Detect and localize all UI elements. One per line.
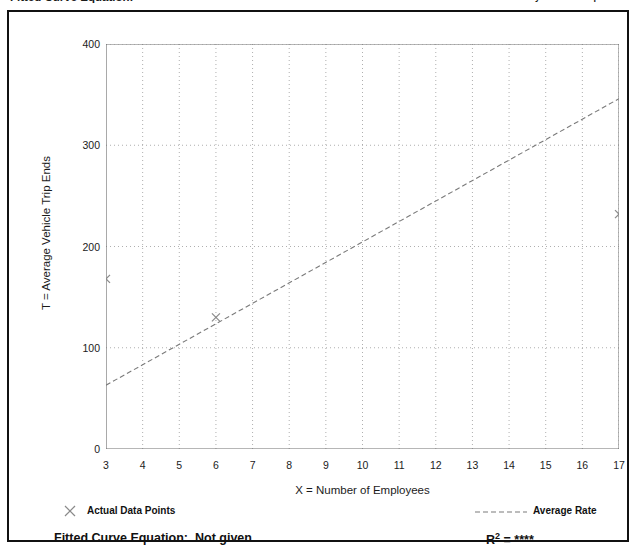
r-squared-label: R: [486, 533, 495, 547]
x-axis-tick-label: 4: [128, 459, 158, 471]
y-axis-tick-label: 0: [66, 444, 100, 454]
figure-frame: T = Average Vehicle Trip Ends 0100200300…: [7, 10, 629, 542]
chart-canvas: [106, 44, 619, 449]
y-axis-tick-label: 100: [66, 343, 100, 353]
x-axis-tick-label: 9: [311, 459, 341, 471]
header-left-text: Fitted Curve Equation:: [10, 0, 133, 3]
x-axis-tick-label: 8: [274, 459, 304, 471]
x-cross-marker-icon: [63, 504, 77, 518]
x-axis-tick-label: 7: [238, 459, 268, 471]
x-axis-tick-label: 15: [531, 459, 561, 471]
r-squared-value: R2 = ****: [486, 531, 534, 547]
y-axis-tick-label: 400: [66, 39, 100, 49]
x-axis-tick-label: 17: [604, 459, 634, 471]
y-axis-tick-labels: 0100200300400: [64, 44, 100, 449]
x-axis-tick-labels: 34567891011121314151617: [106, 459, 619, 475]
x-axis-tick-label: 5: [164, 459, 194, 471]
legend-label-average-rate: Average Rate: [533, 505, 597, 516]
r-squared-number: ****: [514, 533, 533, 547]
plot-area: [106, 44, 619, 449]
dashed-line-marker-icon: [475, 511, 527, 513]
fitted-curve-equation: Fitted Curve Equation: Not given: [54, 531, 252, 545]
fitted-curve-equation-label: Fitted Curve Equation:: [54, 531, 188, 545]
fitted-curve-equation-value: Not given: [195, 531, 252, 545]
x-axis-tick-label: 6: [201, 459, 231, 471]
x-axis-tick-label: 13: [457, 459, 487, 471]
chart-legend: Actual Data Points Average Rate: [9, 504, 631, 524]
x-axis-tick-label: 14: [494, 459, 524, 471]
cropped-header-strip: Fitted Curve Equation: Caution - Use Car…: [0, 0, 637, 9]
x-axis-title: X = Number of Employees: [106, 484, 619, 496]
y-axis-tick-label: 300: [66, 140, 100, 150]
x-axis-tick-label: 11: [384, 459, 414, 471]
x-axis-tick-label: 10: [348, 459, 378, 471]
x-axis-tick-label: 12: [421, 459, 451, 471]
x-axis-tick-label: 3: [91, 459, 121, 471]
equation-footer-row: Fitted Curve Equation: Not given R2 = **…: [9, 531, 631, 549]
r-squared-equals: =: [500, 533, 514, 547]
header-right-caution-text: Caution - Use Carefully - Small Sample S…: [441, 0, 627, 2]
legend-label-actual-data-points: Actual Data Points: [87, 505, 175, 516]
x-axis-tick-label: 16: [567, 459, 597, 471]
y-axis-title: T = Average Vehicle Trip Ends: [40, 123, 52, 343]
y-axis-tick-label: 200: [66, 242, 100, 252]
